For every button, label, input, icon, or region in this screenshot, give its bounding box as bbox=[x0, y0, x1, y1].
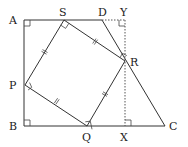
label-s: S bbox=[59, 6, 67, 19]
trapezoid-abcd bbox=[24, 20, 165, 126]
right-angle-y bbox=[119, 20, 125, 26]
geometry-diagram: A B C D S R Q P Y X bbox=[0, 0, 188, 147]
right-angle-x bbox=[125, 120, 131, 126]
label-x: X bbox=[120, 131, 128, 144]
label-d: D bbox=[98, 6, 107, 19]
label-r: R bbox=[130, 56, 139, 69]
label-q: Q bbox=[82, 131, 91, 144]
label-a: A bbox=[8, 14, 18, 27]
right-angle-a bbox=[24, 20, 30, 26]
right-angle-b bbox=[24, 120, 30, 126]
label-y: Y bbox=[119, 6, 128, 19]
label-b: B bbox=[9, 120, 17, 133]
label-p: P bbox=[9, 79, 17, 92]
label-c: C bbox=[169, 120, 177, 133]
tick-marks bbox=[42, 39, 109, 105]
square-pqrs bbox=[25, 20, 125, 126]
